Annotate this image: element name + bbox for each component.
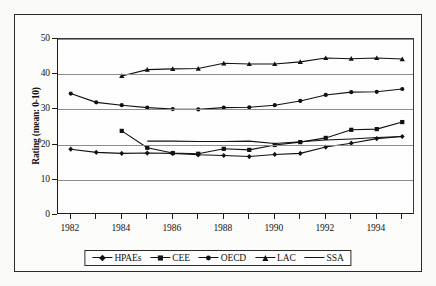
series-line <box>147 137 402 144</box>
data-point <box>374 136 379 141</box>
data-point <box>400 87 404 91</box>
x-tick-label: 1990 <box>264 223 283 233</box>
x-tick-label: 1988 <box>213 223 232 233</box>
y-tick-label: 0 <box>45 209 50 219</box>
series-layer <box>58 39 415 215</box>
legend-label: HPAEs <box>114 253 141 263</box>
x-tick-label: 1994 <box>366 223 385 233</box>
y-tick-label: 50 <box>41 33 50 43</box>
diamond-marker-icon <box>99 255 106 262</box>
data-point <box>94 100 98 104</box>
data-point <box>171 151 175 155</box>
series-ssa <box>147 137 402 144</box>
legend-label: CEE <box>172 253 190 263</box>
legend-swatch-hpaes <box>92 254 112 262</box>
data-point <box>120 129 124 133</box>
x-tick-label: 1984 <box>111 223 130 233</box>
legend-swatch-cee <box>150 254 170 262</box>
data-point <box>247 148 251 152</box>
legend-item-lac[interactable]: LAC <box>255 253 296 263</box>
x-tick-label: 1982 <box>60 223 79 233</box>
series-hpaes <box>68 134 404 159</box>
legend-swatch-lac <box>255 254 275 262</box>
y-axis-title-wrapper: Rating (mean: 0-10) <box>22 38 42 214</box>
legend-swatch-oecd <box>199 254 219 262</box>
series-oecd <box>69 87 405 112</box>
legend-label: SSA <box>327 253 344 263</box>
data-point <box>298 151 303 156</box>
y-axis-title: Rating (mean: 0-10) <box>31 87 41 164</box>
data-point <box>94 150 99 155</box>
legend-label: OECD <box>221 253 246 263</box>
triangle-marker-icon <box>262 255 268 261</box>
data-point <box>119 151 124 156</box>
data-point <box>298 99 302 103</box>
legend-item-hpaes[interactable]: HPAEs <box>92 253 141 263</box>
gridline-40 <box>58 74 413 75</box>
data-point <box>324 93 328 97</box>
x-tick-label: 1992 <box>315 223 334 233</box>
gridline-30 <box>58 109 413 110</box>
data-point <box>196 152 200 156</box>
square-marker-icon <box>158 255 163 260</box>
gridline-50 <box>58 39 413 40</box>
data-point <box>247 154 252 159</box>
data-point <box>324 136 328 140</box>
data-point <box>273 103 277 107</box>
data-point <box>120 103 124 107</box>
data-point <box>400 120 404 124</box>
legend-item-ssa[interactable]: SSA <box>305 253 344 263</box>
data-point <box>272 152 277 157</box>
y-tick-label: 40 <box>41 68 50 78</box>
x-tick-label: 1986 <box>162 223 181 233</box>
y-tick-mark <box>52 214 57 215</box>
series-line <box>122 122 403 154</box>
data-point <box>145 150 150 155</box>
data-point <box>145 146 149 150</box>
data-point <box>375 127 379 131</box>
gridline-10 <box>58 180 413 181</box>
data-point <box>68 147 73 152</box>
legend-item-cee[interactable]: CEE <box>150 253 190 263</box>
legend-item-oecd[interactable]: OECD <box>199 253 246 263</box>
plot-area <box>57 38 414 214</box>
data-point <box>375 90 379 94</box>
y-tick-label: 30 <box>41 103 50 113</box>
y-tick-label: 20 <box>41 139 50 149</box>
data-point <box>349 90 353 94</box>
y-tick-label: 10 <box>41 174 50 184</box>
data-point <box>349 128 353 132</box>
legend-swatch-ssa <box>305 254 325 262</box>
chart-figure: Rating (mean: 0-10) 01020304050 19821984… <box>0 0 436 286</box>
circle-marker-icon <box>206 256 211 261</box>
gridline-20 <box>58 145 413 146</box>
legend-label: LAC <box>277 253 296 263</box>
data-point <box>222 147 226 151</box>
chart-legend: HPAEsCEEOECDLACSSA <box>84 250 351 266</box>
data-point <box>221 153 226 158</box>
data-point <box>69 91 73 95</box>
